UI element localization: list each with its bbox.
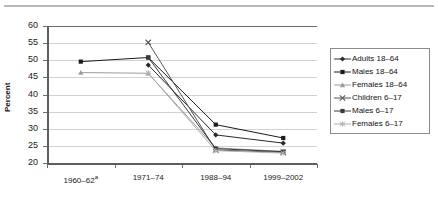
data-point — [213, 148, 218, 153]
legend-item-label: Males 18–64 — [352, 67, 398, 77]
legend-item[interactable]: Children 6–17 — [333, 91, 427, 104]
y-tick-label: 35 — [16, 107, 38, 116]
x-tick-mark — [317, 164, 318, 168]
series-line — [148, 42, 283, 152]
y-tick-label: 20 — [16, 158, 38, 167]
x-tick-label: 1999–2002 — [243, 173, 323, 182]
x-tick-mark — [250, 164, 251, 168]
legend-item-label: Females 6–17 — [352, 119, 403, 129]
y-axis-line — [47, 26, 49, 164]
gridline — [47, 112, 317, 113]
legend-item-label: Children 6–17 — [352, 93, 402, 103]
legend-marker — [340, 69, 344, 73]
data-point — [281, 149, 286, 154]
gridline — [47, 146, 317, 147]
data-point — [281, 150, 285, 154]
header-divider — [4, 5, 434, 7]
y-tick-label: 25 — [16, 141, 38, 150]
data-point — [213, 147, 218, 152]
legend-item-label: Males 6–17 — [352, 106, 393, 116]
data-point — [281, 150, 286, 155]
plot-area-top-border — [47, 26, 317, 27]
data-point — [78, 70, 83, 75]
y-tick-label: 55 — [16, 38, 38, 47]
legend-item[interactable]: Adults 18–64 — [333, 52, 427, 65]
data-point — [281, 141, 286, 146]
data-point — [281, 150, 286, 155]
data-point — [214, 147, 218, 151]
data-point — [146, 62, 151, 67]
chart-legend: Adults 18–64Males 18–64Females 18–64Chil… — [330, 48, 430, 134]
data-point — [146, 71, 151, 76]
x-tick-mark — [182, 164, 183, 168]
y-tick-label: 50 — [16, 55, 38, 64]
legend-item[interactable]: Males 6–17 — [333, 104, 427, 117]
legend-item[interactable]: Males 18–64 — [333, 65, 427, 78]
data-point — [146, 55, 150, 59]
series-line — [81, 58, 284, 138]
legend-marker-icon — [333, 53, 352, 65]
footnote-marker: a — [95, 174, 98, 180]
gridline — [47, 129, 317, 130]
legend-item-label: Adults 18–64 — [352, 54, 399, 64]
legend-marker-icon — [333, 66, 352, 78]
legend-marker-icon — [333, 79, 352, 91]
gridline — [47, 77, 317, 78]
legend-marker — [340, 121, 345, 126]
y-tick-label: 60 — [16, 21, 38, 30]
data-point — [214, 123, 218, 127]
data-point — [281, 136, 285, 140]
data-point — [146, 71, 151, 76]
x-tick-mark — [115, 164, 116, 168]
data-point — [213, 132, 218, 137]
legend-marker — [340, 56, 345, 61]
series-line — [148, 58, 283, 152]
legend-item-label: Females 18–64 — [352, 80, 407, 90]
legend-marker-icon — [333, 92, 352, 104]
legend-item[interactable]: Females 18–64 — [333, 78, 427, 91]
y-tick-label: 30 — [16, 124, 38, 133]
y-axis-title: Percent — [1, 62, 15, 132]
x-axis-line — [47, 163, 317, 165]
legend-marker — [340, 108, 344, 112]
x-tick-mark — [47, 164, 48, 168]
y-tick-label: 45 — [16, 72, 38, 81]
data-point — [146, 55, 150, 59]
legend-item[interactable]: Females 6–17 — [333, 117, 427, 130]
series-line — [148, 73, 283, 153]
gridline — [47, 95, 317, 96]
legend-marker-icon — [333, 105, 352, 117]
y-tick-label: 40 — [16, 90, 38, 99]
chart-figure: Percent 202530354045505560 1960–62a1971–… — [0, 0, 438, 206]
gridline — [47, 60, 317, 61]
gridline — [47, 43, 317, 44]
legend-marker-icon — [333, 118, 352, 130]
